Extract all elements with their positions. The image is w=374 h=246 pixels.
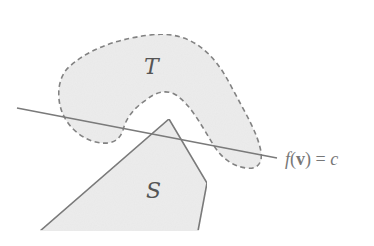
equation-c: c [330,149,338,169]
equation-equals: = [311,149,330,169]
equation-v: v [296,149,305,169]
diagram-canvas [0,0,374,246]
region-s-polygon [40,119,207,231]
region-s-crop [38,230,210,233]
region-t-label: T [144,56,159,78]
region-s-label: S [146,180,161,202]
hyperplane-equation-label: f(v) = c [285,150,338,168]
